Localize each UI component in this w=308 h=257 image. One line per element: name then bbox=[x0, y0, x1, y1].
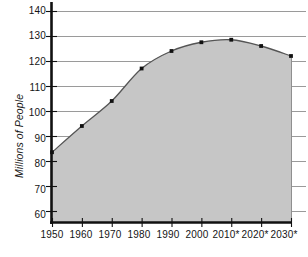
data-point-2000 bbox=[199, 40, 203, 44]
data-point-2030* bbox=[289, 54, 293, 58]
data-point-1980 bbox=[140, 67, 144, 71]
chart-plot-area bbox=[0, 0, 308, 257]
area-fill bbox=[52, 40, 291, 222]
data-point-2020* bbox=[259, 44, 263, 48]
data-point-1970 bbox=[110, 99, 114, 103]
chart-container: Millions of People 140 130 120 110 100 9… bbox=[0, 0, 308, 257]
data-point-1960 bbox=[80, 124, 84, 128]
data-point-1990 bbox=[170, 49, 174, 53]
data-point-2010* bbox=[229, 38, 233, 42]
